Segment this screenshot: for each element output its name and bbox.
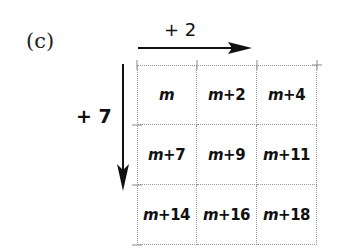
grid-cell: m+2 — [197, 65, 257, 125]
cell-variable: m — [203, 206, 218, 224]
cell-offset: +18 — [278, 206, 310, 224]
grid-cell: m — [137, 65, 197, 125]
cell-variable: m — [159, 86, 174, 104]
grid-cell: m+4 — [257, 65, 317, 125]
grid-cell: m+9 — [197, 125, 257, 185]
cell-offset: +7 — [163, 146, 185, 164]
cell-variable: m — [208, 146, 223, 164]
cell-offset: +9 — [223, 146, 245, 164]
cell-offset: +14 — [158, 206, 190, 224]
cell-offset: +2 — [223, 86, 245, 104]
cell-variable: m — [143, 206, 158, 224]
grid-cell: m+16 — [197, 185, 257, 245]
cell-offset: +4 — [283, 86, 305, 104]
grid-cell: m+11 — [257, 125, 317, 185]
number-grid: mm+2m+4m+7m+9m+11m+14m+16m+18 — [137, 65, 317, 245]
cell-variable: m — [148, 146, 163, 164]
grid-cell: m+7 — [137, 125, 197, 185]
grid-cell: m+18 — [257, 185, 317, 245]
cell-variable: m — [268, 86, 283, 104]
cell-variable: m — [208, 86, 223, 104]
grid-cell: m+14 — [137, 185, 197, 245]
cell-variable: m — [263, 146, 278, 164]
cell-variable: m — [263, 206, 278, 224]
down-arrow-icon — [117, 64, 129, 191]
cell-offset: +11 — [278, 146, 310, 164]
cell-offset: +16 — [218, 206, 250, 224]
right-arrow-icon — [138, 42, 252, 54]
